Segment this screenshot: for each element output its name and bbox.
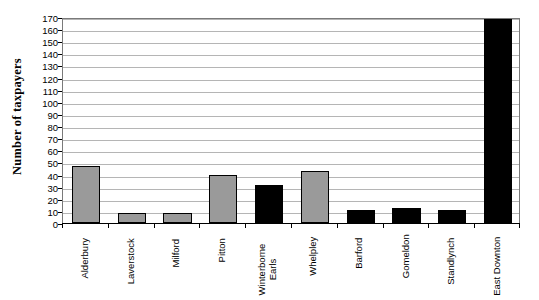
y-axis-title: Number of taxpayers xyxy=(0,0,34,232)
x-axis-tick-label: Alderbury xyxy=(62,229,108,300)
y-axis-tick-label: 110 xyxy=(34,86,58,95)
x-axis-tick-mark xyxy=(199,224,200,228)
y-axis-tick-label: 20 xyxy=(34,195,58,204)
y-axis-title-text: Number of taxpayers xyxy=(10,58,25,175)
x-axis-tick-label-line: Laverstock xyxy=(125,238,136,284)
bar-whelpley xyxy=(301,171,329,223)
x-axis-tick-label-line: Alderbury xyxy=(80,238,91,279)
x-axis-tick-label: Laverstock xyxy=(108,229,154,300)
x-axis-tick-mark xyxy=(245,224,246,228)
x-axis-tick-label: Whelpley xyxy=(291,229,337,300)
bar-standlynch xyxy=(438,210,466,223)
x-axis-tick-label: Milford xyxy=(154,229,200,300)
x-axis-tick-mark xyxy=(428,224,429,228)
y-axis-tick-label: 50 xyxy=(34,159,58,168)
x-axis-tick-label: Barford xyxy=(337,229,383,300)
y-axis-tick-label: 130 xyxy=(34,62,58,71)
bar-pitton xyxy=(209,175,237,223)
y-axis-tick-label: 0 xyxy=(34,220,58,229)
x-axis-tick-label: Pitton xyxy=(199,229,245,300)
bars-layer xyxy=(63,19,519,223)
y-axis-tick-label: 70 xyxy=(34,135,58,144)
bar-gomeldon xyxy=(392,208,420,223)
x-axis-tick-label-line: Standlynch xyxy=(446,238,457,285)
y-axis-tick-label: 160 xyxy=(34,26,58,35)
x-axis-tick-mark xyxy=(383,224,384,228)
y-axis-tick-label: 100 xyxy=(34,98,58,107)
x-axis-tick-label-line: Earls xyxy=(268,243,279,295)
x-axis-tick-label-line: Barford xyxy=(354,238,365,269)
x-axis-tick-mark xyxy=(108,224,109,228)
x-axis-tick-label: East Downton xyxy=(474,229,520,300)
x-axis-tick-mark xyxy=(337,224,338,228)
y-axis-tick-label: 170 xyxy=(34,14,58,23)
bar-east-downton xyxy=(484,18,512,223)
x-axis-tick-label: Gomeldon xyxy=(383,229,429,300)
x-axis-tick-label: WinterborneEarls xyxy=(245,229,291,300)
bar-alderbury xyxy=(72,166,100,223)
x-axis-tick-label-line: Whelpley xyxy=(309,236,320,275)
x-axis-tick-mark xyxy=(291,224,292,228)
x-axis-tick-label-line: Gomeldon xyxy=(400,234,411,278)
x-axis-tick-label-line: Pitton xyxy=(217,238,228,262)
plot-area xyxy=(62,18,520,224)
x-axis-tick-marks xyxy=(62,224,520,228)
bar-chart: Number of taxpayers 01020304050607080901… xyxy=(0,0,539,300)
x-axis-tick-label-line: East Downton xyxy=(492,237,503,296)
y-axis-tick-label: 80 xyxy=(34,123,58,132)
bar-laverstock xyxy=(118,213,146,223)
y-axis-tick-labels: 0102030405060708090100110120130140150160… xyxy=(34,18,58,224)
y-axis-tick-label: 60 xyxy=(34,147,58,156)
x-axis-tick-label-line: Milford xyxy=(171,239,182,268)
y-axis-tick-label: 140 xyxy=(34,50,58,59)
x-axis-tick-mark xyxy=(474,224,475,228)
y-axis-tick-label: 40 xyxy=(34,171,58,180)
x-axis-tick-label: Standlynch xyxy=(428,229,474,300)
bar-barford xyxy=(347,210,375,223)
bar-milford xyxy=(163,213,191,223)
y-axis-tick-label: 150 xyxy=(34,38,58,47)
y-axis-tick-label: 90 xyxy=(34,110,58,119)
x-axis-tick-labels: AlderburyLaverstockMilfordPittonWinterbo… xyxy=(62,229,520,300)
x-axis-tick-mark xyxy=(154,224,155,228)
bar-winterborne-earls xyxy=(255,185,283,223)
y-axis-tick-label: 10 xyxy=(34,207,58,216)
y-axis-tick-label: 30 xyxy=(34,183,58,192)
x-axis-tick-mark xyxy=(519,224,520,228)
x-axis-tick-mark xyxy=(62,224,63,228)
y-axis-tick-label: 120 xyxy=(34,74,58,83)
